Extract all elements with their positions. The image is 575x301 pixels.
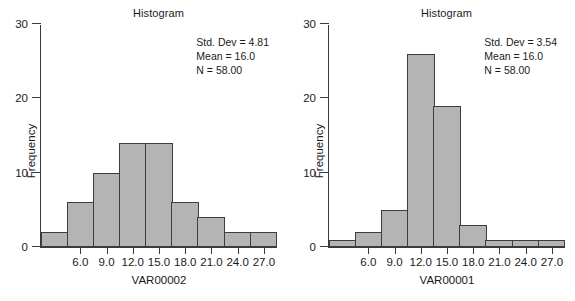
x-axis-tick xyxy=(238,247,239,254)
y-axis-tick xyxy=(32,246,41,247)
histogram-bar xyxy=(485,240,512,247)
y-axis-label: 30 xyxy=(303,18,316,30)
stats-annotation: Std. Dev = 4.81 Mean = 16.0 N = 58.00 xyxy=(196,35,269,77)
chart-title: Histogram xyxy=(40,7,277,19)
histogram-bar xyxy=(197,217,224,247)
x-axis-label: 6.0 xyxy=(360,256,376,268)
y-axis-label: 0 xyxy=(310,241,316,253)
histogram-bar xyxy=(93,173,120,247)
x-axis-label: 6.0 xyxy=(72,256,88,268)
chart-title: Histogram xyxy=(328,7,565,19)
histogram-bar xyxy=(119,143,146,247)
stat-mean: Mean = 16.0 xyxy=(196,49,269,63)
y-axis-label: 20 xyxy=(303,92,316,104)
stat-n: N = 58.00 xyxy=(484,63,557,77)
x-axis-label: 12.0 xyxy=(122,256,144,268)
histogram-bar xyxy=(433,106,460,247)
x-axis-tick xyxy=(447,247,448,254)
histogram-bar xyxy=(171,202,198,247)
x-axis-tick xyxy=(499,247,500,254)
y-axis-label: 10 xyxy=(303,167,316,179)
histogram-bar xyxy=(407,54,434,247)
histogram-bar xyxy=(355,232,382,247)
x-axis-tick xyxy=(264,247,265,254)
histogram-bar xyxy=(459,225,486,247)
x-axis-label: 24.0 xyxy=(226,256,248,268)
stat-std-dev: Std. Dev = 3.54 xyxy=(484,35,557,49)
x-axis-tick xyxy=(80,247,81,254)
histogram-bar xyxy=(381,210,408,247)
x-axis-tick xyxy=(368,247,369,254)
x-axis-title: VAR00001 xyxy=(329,274,565,286)
stat-mean: Mean = 16.0 xyxy=(484,49,557,63)
stat-n: N = 58.00 xyxy=(196,63,269,77)
plot-area: VAR00002 Std. Dev = 4.81 Mean = 16.0 N =… xyxy=(40,25,277,248)
histogram-bar xyxy=(329,240,356,247)
x-axis-tick xyxy=(159,247,160,254)
x-axis-label: 15.0 xyxy=(148,256,170,268)
x-axis-label: 24.0 xyxy=(514,256,536,268)
histogram-panel-right: Histogram Frequency VAR00001 Std. Dev = … xyxy=(288,0,575,301)
x-axis-tick xyxy=(107,247,108,254)
y-axis-label: 20 xyxy=(15,92,28,104)
x-axis-label: 21.0 xyxy=(488,256,510,268)
histogram-bar xyxy=(538,240,565,247)
x-axis-tick xyxy=(526,247,527,254)
y-axis-tick xyxy=(320,23,329,24)
y-axis-tick xyxy=(32,23,41,24)
histogram-bar xyxy=(145,143,172,247)
x-axis-label: 15.0 xyxy=(436,256,458,268)
y-axis-tick xyxy=(32,172,41,173)
x-axis-label: 18.0 xyxy=(462,256,484,268)
x-axis-tick xyxy=(185,247,186,254)
x-axis-label: 27.0 xyxy=(253,256,275,268)
y-axis-label: 30 xyxy=(15,18,28,30)
stat-std-dev: Std. Dev = 4.81 xyxy=(196,35,269,49)
histogram-bar xyxy=(224,232,251,247)
histogram-bar xyxy=(41,232,68,247)
x-axis-label: 9.0 xyxy=(387,256,403,268)
y-axis-tick xyxy=(320,172,329,173)
y-axis-tick xyxy=(320,97,329,98)
y-axis-label: 10 xyxy=(15,167,28,179)
figure-root: Histogram Frequency VAR00002 Std. Dev = … xyxy=(0,0,575,301)
plot-area: VAR00001 Std. Dev = 3.54 Mean = 16.0 N =… xyxy=(328,25,565,248)
x-axis-tick xyxy=(552,247,553,254)
y-axis-label: 0 xyxy=(22,241,28,253)
y-axis-tick xyxy=(320,246,329,247)
x-axis-label: 21.0 xyxy=(200,256,222,268)
x-axis-label: 12.0 xyxy=(410,256,432,268)
x-axis-tick xyxy=(395,247,396,254)
x-axis-tick xyxy=(421,247,422,254)
x-axis-tick xyxy=(133,247,134,254)
x-axis-title: VAR00002 xyxy=(41,274,277,286)
histogram-bar xyxy=(512,240,539,247)
x-axis-label: 27.0 xyxy=(541,256,563,268)
x-axis-label: 9.0 xyxy=(99,256,115,268)
x-axis-label: 18.0 xyxy=(174,256,196,268)
histogram-panel-left: Histogram Frequency VAR00002 Std. Dev = … xyxy=(0,0,287,301)
x-axis-tick xyxy=(473,247,474,254)
y-axis-tick xyxy=(32,97,41,98)
x-axis-tick xyxy=(211,247,212,254)
stats-annotation: Std. Dev = 3.54 Mean = 16.0 N = 58.00 xyxy=(484,35,557,77)
histogram-bar xyxy=(67,202,94,247)
histogram-bar xyxy=(250,232,277,247)
